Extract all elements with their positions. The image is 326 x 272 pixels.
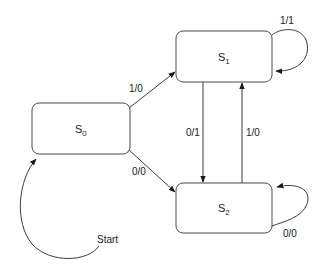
state-diagram: S0 S1 S2 1/0 0/0 0/1 1/0 1/1 0/0 <box>0 0 326 272</box>
self-loop-s1 <box>272 30 308 71</box>
self-loop-s2 <box>272 186 308 226</box>
transition-s2-self: 0/0 <box>272 186 308 239</box>
start-transition: Start <box>20 159 118 259</box>
transition-s2-s1: 1/0 <box>242 83 260 183</box>
transition-label-s2-s1: 1/0 <box>246 127 260 138</box>
state-s1: S1 <box>176 31 272 82</box>
transition-s1-s2: 0/1 <box>186 82 203 182</box>
transition-label-s0-s1: 1/0 <box>129 83 143 94</box>
state-s0: S0 <box>32 103 130 154</box>
transition-label-s1-self: 1/1 <box>280 15 294 26</box>
start-arrow <box>20 159 99 259</box>
transition-s0-s2: 0/0 <box>129 150 175 192</box>
transition-s1-self: 1/1 <box>272 15 308 71</box>
start-label: Start <box>97 234 118 245</box>
state-s2: S2 <box>176 183 272 233</box>
transition-label-s1-s2: 0/1 <box>186 127 200 138</box>
transition-s0-s1: 1/0 <box>129 72 175 108</box>
transition-label-s2-self: 0/0 <box>283 228 297 239</box>
transition-label-s0-s2: 0/0 <box>132 166 146 177</box>
